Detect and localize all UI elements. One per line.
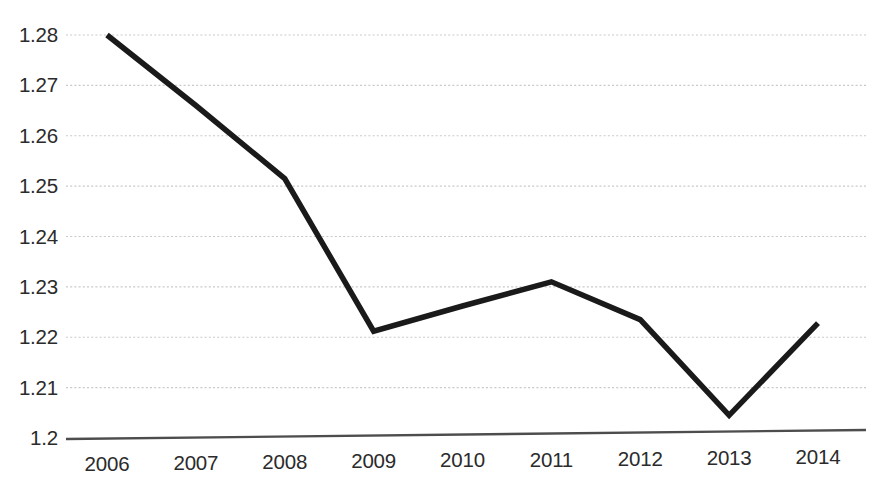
line-chart: 1.21.211.221.231.241.251.261.271.28 2006… bbox=[0, 0, 872, 496]
axis-baseline bbox=[66, 430, 866, 439]
x-axis-tick-label: 2011 bbox=[530, 448, 573, 472]
y-axis-tick-label: 1.27 bbox=[0, 73, 58, 97]
x-axis-tick-label: 2007 bbox=[173, 451, 218, 475]
x-axis-line bbox=[66, 430, 866, 439]
x-axis-tick-label: 2012 bbox=[618, 447, 663, 471]
y-axis-tick-label: 1.22 bbox=[0, 325, 58, 349]
y-axis-tick-label: 1.26 bbox=[0, 124, 58, 148]
x-axis-tick-label: 2008 bbox=[262, 450, 307, 474]
y-axis-tick-label: 1.23 bbox=[0, 275, 58, 299]
gridlines bbox=[66, 35, 866, 388]
x-axis-tick-label: 2013 bbox=[707, 446, 752, 470]
series-polyline bbox=[107, 35, 818, 415]
data-series-line bbox=[107, 35, 818, 415]
y-axis-tick-label: 1.2 bbox=[0, 426, 58, 450]
x-axis-tick-label: 2006 bbox=[85, 452, 130, 476]
y-axis-tick-label: 1.21 bbox=[0, 376, 58, 400]
y-axis-tick-label: 1.24 bbox=[0, 225, 58, 249]
y-axis-tick-label: 1.28 bbox=[0, 23, 58, 47]
chart-plot-area bbox=[0, 0, 872, 496]
y-axis-tick-label: 1.25 bbox=[0, 174, 58, 198]
x-axis-tick-label: 2009 bbox=[351, 449, 396, 473]
x-axis-tick-label: 2014 bbox=[796, 445, 841, 469]
x-axis-tick-label: 2010 bbox=[440, 448, 485, 472]
